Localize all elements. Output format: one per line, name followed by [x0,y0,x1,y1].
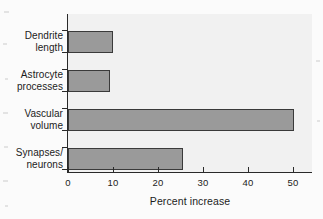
scan-artifact [317,120,320,122]
category-label-astrocyte-processes: Astrocyte processes [0,69,63,92]
x-axis-tick-label: 0 [53,177,83,188]
x-axis-tick [113,167,114,172]
bar-astrocyte-processes [68,70,110,92]
x-axis-tick-label: 50 [278,177,308,188]
x-axis-tick-label: 40 [233,177,263,188]
scan-artifact [4,11,9,13]
x-axis-line [67,172,312,173]
bar-dendrite-length [68,31,113,53]
category-label-line: Synapses/ [0,147,63,159]
x-axis-tick [68,167,69,172]
x-axis-tick [203,167,204,172]
category-label-vascular-volume: Vascular volume [0,108,63,131]
category-label-line: Vascular [0,108,63,120]
figure-panel: Dendrite length Astrocyte processes Vasc… [0,0,323,219]
category-label-dendrite-length: Dendrite length [0,30,63,53]
x-axis-title: Percent increase [68,195,312,207]
x-axis-tick-label: 30 [188,177,218,188]
category-label-synapses-neurons: Synapses/ neurons [0,147,63,170]
category-label-line: processes [0,81,63,93]
x-axis-tick [248,167,249,172]
x-axis-tick [293,167,294,172]
category-label-line: length [0,42,63,54]
x-axis-tick-label: 20 [143,177,173,188]
category-label-line: volume [0,120,63,132]
scan-artifact [3,180,8,182]
x-axis-tick [158,167,159,172]
scan-artifact [316,60,320,62]
bar-vascular-volume [68,109,294,131]
category-label-line: Astrocyte [0,69,63,81]
x-axis-tick-label: 10 [98,177,128,188]
scan-artifact [5,205,8,207]
category-label-line: neurons [0,159,63,171]
category-label-line: Dendrite [0,30,63,42]
bar-synapses-neurons [68,148,183,170]
